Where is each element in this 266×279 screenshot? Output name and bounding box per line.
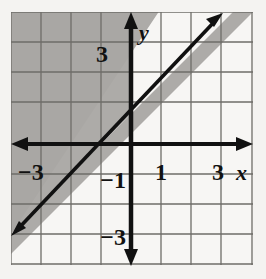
y-tick-label-neg3: −3 xyxy=(100,224,126,250)
x-tick-label-neg3: −3 xyxy=(18,159,44,185)
y-tick-label-3: 3 xyxy=(96,41,108,67)
coordinate-graph: −3 1 3 3 −1 −3 x y xyxy=(0,0,266,279)
x-tick-label-1: 1 xyxy=(155,159,167,185)
x-axis-variable-label: x xyxy=(235,160,247,185)
figure-canvas: −3 1 3 3 −1 −3 x y xyxy=(0,0,266,279)
y-tick-label-neg1: −1 xyxy=(100,167,126,193)
x-tick-label-3: 3 xyxy=(212,159,224,185)
